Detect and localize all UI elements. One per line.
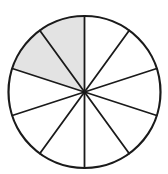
fraction-circle-figure: Fraction circle divided into ten equal s… — [0, 0, 168, 174]
fraction-circle-diagram: Fraction circle divided into ten equal s… — [0, 0, 168, 174]
